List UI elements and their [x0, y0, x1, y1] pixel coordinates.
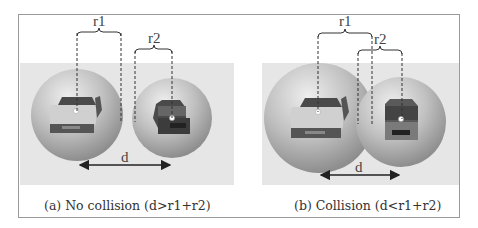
panel-b: r1 r2 d	[264, 13, 446, 175]
r2-label: r2	[148, 30, 161, 46]
d-label: d	[121, 149, 129, 165]
panel-a: r1 r2 d	[31, 13, 212, 165]
r1-label: r1	[93, 13, 106, 29]
collision-diagram: r1 r2 d	[0, 0, 478, 228]
r2-label: r2	[374, 31, 387, 47]
caption-a: (a) No collision (d>r1+r2)	[44, 198, 211, 213]
bounding-sphere-car1	[31, 69, 123, 161]
bounding-sphere-car2	[356, 77, 446, 167]
caption-b: (b) Collision (d<r1+r2)	[294, 198, 441, 213]
r1-label: r1	[339, 13, 352, 29]
d-label: d	[355, 159, 363, 175]
